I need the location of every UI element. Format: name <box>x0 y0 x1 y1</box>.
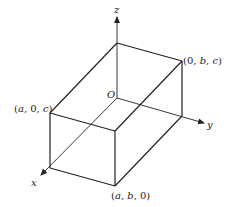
box-diagram: z y x O (a, 0, c) (0, b, c) (a, b, 0) <box>0 0 228 207</box>
y-axis-label: y <box>206 119 213 130</box>
vertex-label-ab0: (a, b, 0) <box>111 190 150 201</box>
edge-top-front <box>50 113 115 131</box>
z-axis-label: z <box>113 4 120 15</box>
edge-top-left <box>50 43 117 113</box>
vertex-label-a0c: (a, 0, c) <box>14 103 53 114</box>
x-axis-label: x <box>31 177 37 188</box>
vertex-label-0bc: (0, b, c) <box>183 55 222 66</box>
y-axis <box>117 98 204 123</box>
edge-bottom-front <box>50 168 115 186</box>
edge-top-back <box>117 43 182 61</box>
box-edges <box>50 43 182 186</box>
edge-top-right <box>115 61 182 131</box>
edge-bottom-right <box>115 116 182 186</box>
origin-label: O <box>107 89 115 100</box>
